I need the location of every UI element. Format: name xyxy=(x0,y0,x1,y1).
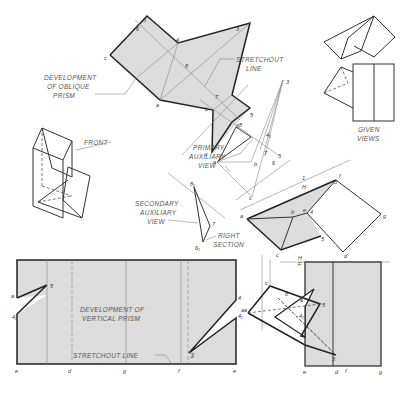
svg-text:7: 7 xyxy=(264,150,268,156)
svg-text:8₁: 8₁ xyxy=(190,181,195,187)
svg-text:e: e xyxy=(233,368,236,374)
svg-text:a: a xyxy=(244,307,247,313)
svg-text:1: 1 xyxy=(302,175,305,181)
svg-text:g: g xyxy=(123,368,127,374)
svg-text:a: a xyxy=(241,307,244,313)
technical-drawing: 5 6 c 4 8 a 3 7 b 5 6 c DEVELOPMENT OF O… xyxy=(0,0,413,394)
svg-text:f: f xyxy=(178,368,180,374)
svg-text:4₁: 4₁ xyxy=(299,313,304,319)
svg-text:AUXILIARY: AUXILIARY xyxy=(188,153,226,160)
point-4: 4 xyxy=(176,37,179,43)
svg-text:4₁: 4₁ xyxy=(266,132,271,138)
svg-text:PRIMARY: PRIMARY xyxy=(193,144,225,151)
svg-text:c: c xyxy=(265,280,268,286)
svg-text:4: 4 xyxy=(310,209,313,215)
svg-text:VIEW: VIEW xyxy=(198,162,216,169)
secondary-auxiliary-view: 8₁ 7 6₁ SECONDARY AUXILIARY VIEW RIGHT S… xyxy=(135,181,244,251)
svg-text:f: f xyxy=(339,173,341,179)
svg-text:5: 5 xyxy=(278,153,282,159)
svg-text:b: b xyxy=(291,209,294,215)
front-view: H F c b a 5 a 4₁ 3 e d f g xyxy=(244,255,390,375)
svg-text:DEVELOPMENT OF: DEVELOPMENT OF xyxy=(80,306,145,313)
svg-text:STRETCHOUT LINE: STRETCHOUT LINE xyxy=(73,352,139,359)
svg-text:b: b xyxy=(285,291,288,297)
svg-text:OF OBLIQUE: OF OBLIQUE xyxy=(47,83,90,91)
svg-text:6: 6 xyxy=(272,160,276,166)
svg-text:PRISM: PRISM xyxy=(53,92,75,99)
svg-text:f: f xyxy=(345,368,347,374)
point-a: a xyxy=(156,102,159,108)
svg-text:e: e xyxy=(303,369,306,375)
svg-text:c: c xyxy=(249,195,252,201)
svg-text:VIEW: VIEW xyxy=(147,218,165,225)
svg-text:c: c xyxy=(276,252,279,258)
svg-text:GIVEN: GIVEN xyxy=(358,126,380,133)
svg-text:VIEWS: VIEWS xyxy=(357,135,380,142)
svg-text:d: d xyxy=(335,369,339,375)
svg-text:RIGHT: RIGHT xyxy=(218,232,240,239)
svg-text:DEVELOPMENT: DEVELOPMENT xyxy=(44,74,97,81)
svg-text:3: 3 xyxy=(190,352,194,359)
svg-text:3: 3 xyxy=(334,179,338,185)
svg-text:AUXILIARY: AUXILIARY xyxy=(139,209,177,216)
label-development-oblique: DEVELOPMENT OF OBLIQUE PRISM xyxy=(44,74,135,99)
svg-text:3: 3 xyxy=(286,79,290,85)
svg-text:d: d xyxy=(344,253,348,259)
svg-text:a: a xyxy=(300,297,303,303)
svg-text:STRETCHOUT: STRETCHOUT xyxy=(236,56,284,63)
svg-text:e: e xyxy=(303,207,306,213)
svg-text:7: 7 xyxy=(212,221,216,227)
top-view: 1 H a b e f 4 5 c d g 3 xyxy=(240,160,387,259)
svg-text:SECONDARY: SECONDARY xyxy=(135,200,179,207)
svg-text:4₁: 4₁ xyxy=(12,314,17,320)
svg-text:SECTION: SECTION xyxy=(213,241,244,248)
point-5b: 5 xyxy=(250,112,254,118)
given-views: GIVEN VIEWS xyxy=(324,16,395,142)
svg-text:g: g xyxy=(379,369,383,375)
svg-text:4₁: 4₁ xyxy=(238,313,243,319)
svg-text:6₁: 6₁ xyxy=(195,245,200,251)
svg-text:b: b xyxy=(254,161,257,167)
svg-text:e: e xyxy=(15,368,18,374)
pictorial-view: FRONT xyxy=(33,128,111,218)
svg-text:LINE: LINE xyxy=(246,65,262,72)
svg-text:H: H xyxy=(302,184,306,190)
vertical-prism-development: 5 a 4₁ e d g f e 4 4₁ a 3 DEVELOPMENT OF… xyxy=(11,260,244,374)
svg-text:d: d xyxy=(68,368,72,374)
svg-text:a: a xyxy=(11,293,14,299)
svg-text:5: 5 xyxy=(321,236,325,242)
svg-text:4: 4 xyxy=(238,295,241,301)
svg-text:8: 8 xyxy=(239,122,243,128)
svg-text:g: g xyxy=(383,213,387,219)
svg-text:VERTICAL PRISM: VERTICAL PRISM xyxy=(82,315,140,322)
point-b: b xyxy=(205,106,208,112)
point-c: c xyxy=(104,55,107,61)
svg-text:FRONT: FRONT xyxy=(84,139,109,146)
svg-text:a: a xyxy=(240,213,243,219)
